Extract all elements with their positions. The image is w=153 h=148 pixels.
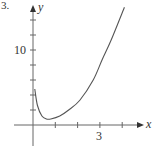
function-curve <box>35 7 125 119</box>
y-axis-arrow-icon <box>30 5 36 12</box>
y-tick-label-10: 10 <box>14 43 26 58</box>
x-axis-arrow-icon <box>137 122 144 128</box>
x-tick-label-3: 3 <box>96 129 102 144</box>
function-graph <box>0 0 153 148</box>
y-axis-label: y <box>38 0 43 15</box>
x-axis-label: x <box>146 117 151 132</box>
problem-number: 3. <box>1 0 9 11</box>
